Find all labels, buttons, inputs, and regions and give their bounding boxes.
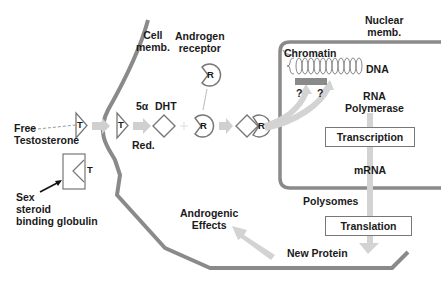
label-free-testosterone: FreeTestosterone: [14, 122, 79, 146]
label-androgenic-effects: AndrogenicEffects: [180, 207, 238, 231]
dht-shape: [153, 115, 175, 137]
r-symbol-receptor: R: [207, 69, 214, 81]
label-reductase: Red.: [132, 139, 155, 151]
label-cell-membrane: Cellmemb.: [136, 29, 170, 53]
label-dht: DHT: [155, 100, 177, 112]
r-symbol-complex: R: [258, 120, 265, 132]
t-symbol-shbg: T: [87, 164, 93, 176]
label-androgen-receptor: Androgenreceptor: [175, 30, 225, 54]
label-mrna: mRNA: [354, 164, 386, 176]
label-shbg: Sexsteroidbinding globulin: [16, 191, 98, 227]
t-symbol-free: T: [77, 119, 83, 131]
label-chromatin: Chromatin: [284, 47, 337, 59]
label-new-protein: New Protein: [287, 247, 348, 259]
label-rna-polymerase: RNAPolymerase: [345, 90, 404, 114]
t-symbol-inside: T: [118, 119, 124, 131]
label-question-1: ?: [296, 87, 302, 99]
transcription-box: Transcription: [325, 127, 415, 147]
label-question-2: ?: [317, 87, 323, 99]
translation-box: Translation: [325, 216, 412, 236]
label-polysomes: Polysomes: [303, 195, 358, 207]
label-5-alpha: 5α: [136, 100, 148, 112]
label-nuclear-membrane: Nuclearmemb.: [365, 14, 404, 38]
r-symbol-bound: R: [200, 120, 207, 132]
label-dna: DNA: [366, 63, 389, 75]
